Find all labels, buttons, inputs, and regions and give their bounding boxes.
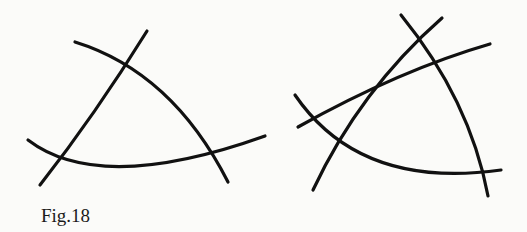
figure-page: Fig.18: [0, 0, 527, 232]
geometric-figure: [0, 0, 527, 232]
left-triangle-construction: [28, 31, 265, 185]
left-diagonal-line: [40, 31, 147, 185]
figure-caption: Fig.18: [41, 206, 90, 225]
left-bottom-arc: [28, 136, 265, 167]
right-triangle-construction: [295, 15, 501, 196]
left-top-arc: [75, 42, 228, 182]
